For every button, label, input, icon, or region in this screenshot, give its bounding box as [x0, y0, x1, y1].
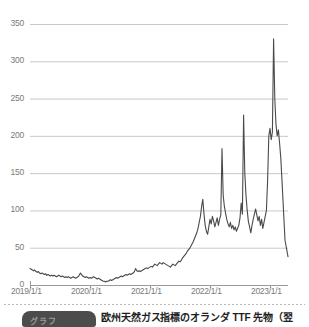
line-chart-svg: [0, 0, 309, 300]
x-tick-label: 2020/1/1: [71, 287, 102, 296]
y-tick-label: 250: [0, 94, 24, 103]
y-tick-label: 350: [0, 19, 24, 28]
y-tick-label: 50: [0, 243, 24, 252]
y-tick-label: 100: [0, 205, 24, 214]
x-tick-label: 2023/1/1: [251, 287, 282, 296]
chart-background: [0, 0, 309, 300]
y-tick-label: 200: [0, 131, 24, 140]
y-tick-label: 150: [0, 168, 24, 177]
chart-plot-area: 050100150200250300350 2019/1/12020/1/120…: [0, 0, 309, 300]
caption-text: 欧州天然ガス指標のオランダ TTF 先物（翌: [101, 309, 293, 324]
caption-badge-label: グラフ: [22, 311, 96, 326]
x-tick-label: 2019/1/1: [11, 287, 42, 296]
caption-block: グラフ 欧州天然ガス指標のオランダ TTF 先物（翌: [0, 300, 309, 324]
x-tick-label: 2021/1/1: [131, 287, 162, 296]
y-tick-label: 300: [0, 56, 24, 65]
caption-badge: グラフ: [22, 311, 96, 327]
dotted-separator: [4, 304, 305, 305]
x-tick-label: 2022/1/1: [191, 287, 222, 296]
